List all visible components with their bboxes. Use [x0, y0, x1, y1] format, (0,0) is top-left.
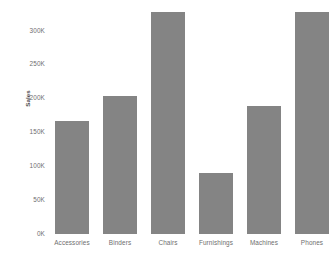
bar[interactable]	[151, 12, 185, 234]
y-axis-tick-labels: 0K50K100K150K200K250K300K	[0, 0, 48, 261]
bar-chart: Sales 0K50K100K150K200K250K300K Accessor…	[0, 0, 336, 261]
bar-slot	[103, 0, 137, 234]
bar[interactable]	[103, 96, 137, 234]
x-axis-tick-label: Chairs	[144, 240, 192, 246]
plot-area	[48, 0, 336, 234]
y-axis-tick-label: 250K	[1, 61, 45, 67]
y-axis-tick-label: 150K	[1, 129, 45, 135]
y-axis-tick-label: 50K	[1, 197, 45, 203]
y-axis-tick-label: 300K	[1, 27, 45, 33]
x-axis-tick-label: Binders	[96, 240, 144, 246]
bar-slot	[151, 0, 185, 234]
x-axis-tick-labels: AccessoriesBindersChairsFurnishingsMachi…	[48, 236, 336, 252]
x-axis-tick-label: Phones	[288, 240, 336, 246]
bar-slot	[247, 0, 281, 234]
bar-slot	[55, 0, 89, 234]
x-axis-tick-label: Furnishings	[192, 240, 240, 246]
y-axis-tick-label: 200K	[1, 95, 45, 101]
bar[interactable]	[247, 106, 281, 234]
y-axis-tick-label: 100K	[1, 163, 45, 169]
y-axis-tick-label: 0K	[1, 231, 45, 237]
bar[interactable]	[55, 121, 89, 234]
x-axis-tick-label: Machines	[240, 240, 288, 246]
bar-slot	[199, 0, 233, 234]
bar[interactable]	[295, 12, 329, 234]
x-axis-tick-label: Accessories	[48, 240, 96, 246]
bar[interactable]	[199, 173, 233, 234]
bar-slot	[295, 0, 329, 234]
